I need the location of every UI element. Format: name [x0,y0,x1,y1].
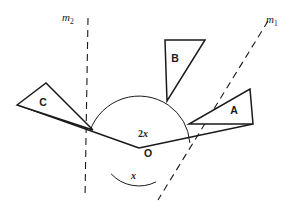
line-m1-label: m1 [266,13,278,28]
arc-angle-2x [90,96,168,131]
triangle-C [17,83,93,130]
line-m2 [85,18,88,198]
diagram-canvas: A B C O 2x x m2 m1 [0,0,298,217]
angle-2x-label: 2x [138,128,148,139]
vertex-O-label: O [144,147,152,159]
angle-2x-variable: x [142,128,148,139]
triangle-C-label: C [39,96,47,108]
line-m2-label-subscript: 2 [70,17,74,26]
line-m1-label-base: m [266,13,274,25]
triangle-B-label: B [171,52,179,64]
triangle-A-label: A [230,104,238,116]
triangle-B [165,40,205,101]
ray-right [139,124,253,148]
geometry-diagram: A B C O 2x x m2 m1 [0,0,298,217]
line-m2-label-base: m [62,11,70,23]
triangle-A [189,89,253,124]
line-m1-label-subscript: 1 [274,19,278,28]
line-m2-label: m2 [62,11,74,26]
arc-angle-upper-small [168,105,190,143]
angle-x-label: x [130,170,136,181]
